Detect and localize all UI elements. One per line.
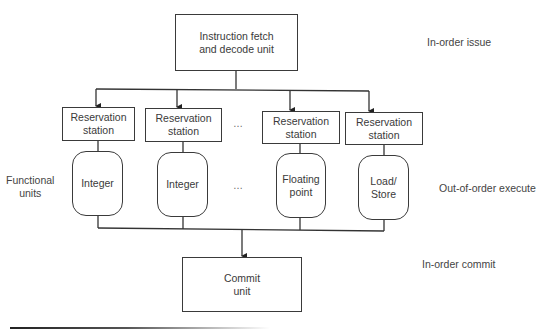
functional-unit-integer-2: Integer	[157, 152, 208, 217]
functional-unit-label: Integer	[166, 178, 199, 191]
commit-unit-label: Commit unit	[224, 272, 260, 298]
reservation-station-label: Reservation station	[70, 111, 126, 137]
reservation-station-2: Reservation station	[145, 108, 222, 142]
reservation-station-label: Reservation station	[273, 115, 329, 141]
functional-unit-label: Floating point	[282, 173, 319, 199]
ellipsis-units: …	[233, 180, 244, 191]
stage-label-execute: Out-of-order execute	[439, 182, 536, 195]
functional-unit-integer-1: Integer	[72, 151, 123, 216]
reservation-station-label: Reservation station	[155, 112, 211, 138]
functional-unit-label: Integer	[81, 177, 114, 190]
instruction-fetch-decode-unit: Instruction fetch and decode unit	[175, 14, 298, 71]
stage-label-commit: In-order commit	[422, 258, 496, 271]
functional-units-label: Functional units	[6, 174, 54, 200]
commit-unit: Commit unit	[182, 257, 302, 312]
reservation-station-1: Reservation station	[62, 107, 135, 141]
functional-unit-floating-point: Floating point	[276, 153, 326, 218]
functional-unit-load-store: Load/ Store	[358, 155, 409, 220]
reservation-station-3: Reservation station	[262, 111, 340, 144]
fetch-unit-label: Instruction fetch and decode unit	[199, 30, 274, 56]
reservation-station-label: Reservation station	[356, 116, 412, 142]
functional-unit-label: Load/ Store	[370, 175, 396, 201]
reservation-station-4: Reservation station	[345, 112, 423, 145]
stage-label-issue: In-order issue	[427, 36, 491, 49]
ellipsis-stations: …	[233, 118, 244, 129]
